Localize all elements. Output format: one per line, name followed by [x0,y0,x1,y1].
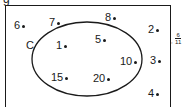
point-3: 3 [150,55,161,66]
point-label: 20 [93,72,105,84]
point-dot-icon [103,39,106,42]
point-20: 20 [93,73,110,84]
point-8: 8 [105,12,116,23]
point-label: 2 [148,23,154,35]
point-7: 7 [49,17,60,28]
point-dot-icon [65,77,68,80]
point-label: 6 [14,19,20,31]
annotation-comma: , [171,38,173,44]
point-dot-icon [156,93,159,96]
point-label: 15 [51,71,63,83]
point-dot-icon [158,60,161,63]
point-dot-icon [134,61,137,64]
point-2: 2 [148,24,159,35]
point-1: 1 [56,40,67,51]
point-dot-icon [57,22,60,25]
fraction-denominator: 11 [175,39,181,45]
fraction-annotation: 6 11 [175,32,181,45]
point-label: 10 [120,55,132,67]
point-dot-icon [107,78,110,81]
point-label: 8 [105,11,111,23]
point-label: 7 [49,16,55,28]
point-15: 15 [51,72,68,83]
point-dot-icon [64,45,67,48]
point-dot-icon [22,25,25,28]
point-dot-icon [156,29,159,32]
point-label: 1 [56,39,62,51]
point-label: 3 [150,54,156,66]
point-4: 4 [148,88,159,99]
point-dot-icon [113,17,116,20]
point-label: 4 [148,87,154,99]
point-5: 5 [95,34,106,45]
set-c-label: C [26,39,34,51]
point-6: 6 [14,20,25,31]
point-10: 10 [120,56,137,67]
fraction-numerator: 6 [175,32,181,39]
point-label: 5 [95,33,101,45]
